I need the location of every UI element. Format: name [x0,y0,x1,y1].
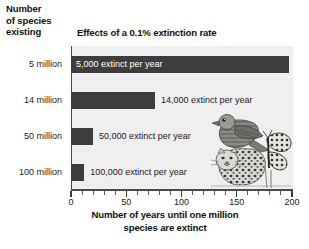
x-tick-label: 150 [229,197,244,207]
x-axis-tick [192,191,193,196]
x-axis-tick [258,191,259,196]
x-axis-tick [280,191,281,196]
x-axis-tick [236,191,237,197]
y-axis-title-line-1: Number [6,3,76,15]
x-axis-tick [104,191,105,196]
x-tick-label: 100 [174,197,189,207]
x-axis-tick [269,191,270,196]
bar-data-label: 100,000 extinct per year [90,167,187,177]
x-tick-label: 50 [121,197,131,207]
extinction-rate-bar-chart: Numberof speciesexisting Effects of a 0.… [0,0,309,249]
x-axis-tick [70,191,71,197]
bar-data-label: 50,000 extinct per year [99,131,191,141]
y-tick-label: 14 million [24,95,62,105]
x-axis-tick [170,191,171,196]
x-axis-title-line-1: Number of years until one million [60,209,270,222]
bar-data-label: 5,000 extinct per year [76,59,163,69]
x-axis-title-line-2: species are extinct [60,222,270,235]
x-axis-tick [82,191,83,196]
wildlife-illustration [205,108,293,190]
x-axis-tick [148,191,149,196]
x-axis-title: Number of years until one million specie… [60,209,270,234]
x-axis-tick [137,191,138,196]
y-axis-title: Numberof speciesexisting [6,3,76,38]
x-axis-tick [291,191,292,197]
bar-data-label: 14,000 extinct per year [161,95,253,105]
bar-14-million [71,92,155,109]
x-axis-tick [225,191,226,196]
bar-100-million [71,164,84,181]
y-tick-label: 5 million [29,59,62,69]
x-axis-tick [247,191,248,196]
x-axis-tick [159,191,160,196]
x-tick-label: 0 [68,197,73,207]
x-axis-tick [214,191,215,196]
y-tick-label: 50 million [24,131,62,141]
y-axis-title-line-2: of species [6,15,76,27]
chart-title: Effects of a 0.1% extinction rate [77,27,217,38]
y-axis-title-line-3: existing [6,26,76,38]
x-tick-label: 200 [284,197,299,207]
x-axis-tick [93,191,94,196]
x-axis-tick [203,191,204,196]
bar-50-million [71,128,93,145]
x-axis-tick [181,191,182,197]
y-tick-label: 100 million [19,167,62,177]
x-axis-tick [115,191,116,196]
x-axis-tick [126,191,127,197]
